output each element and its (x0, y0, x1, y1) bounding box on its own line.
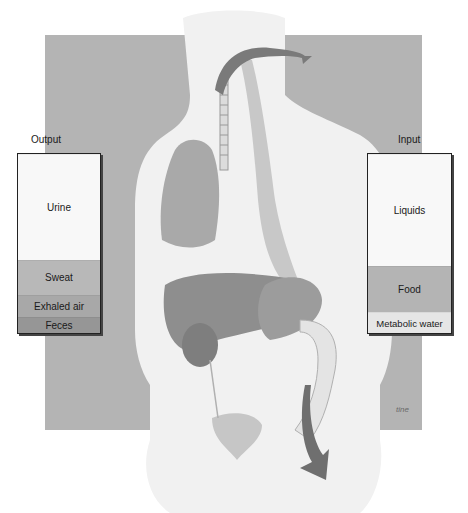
kidney (182, 323, 218, 367)
output-segment-feces: Feces (18, 317, 100, 333)
input-title: Input (398, 134, 420, 145)
input-segment-food: Food (368, 266, 451, 312)
artist-signature: tine (396, 405, 409, 414)
input-segment-liquids: Liquids (368, 154, 451, 266)
input-segment-metabolic-water: Metabolic water (368, 312, 451, 333)
input-chart: Liquids Food Metabolic water (367, 153, 452, 334)
body-silhouette (135, 11, 392, 513)
output-segment-urine: Urine (18, 154, 100, 260)
output-chart: Urine Sweat Exhaled air Feces (17, 153, 101, 334)
output-segment-exhaled-air: Exhaled air (18, 295, 100, 318)
output-title: Output (31, 134, 61, 145)
output-segment-sweat: Sweat (18, 260, 100, 294)
